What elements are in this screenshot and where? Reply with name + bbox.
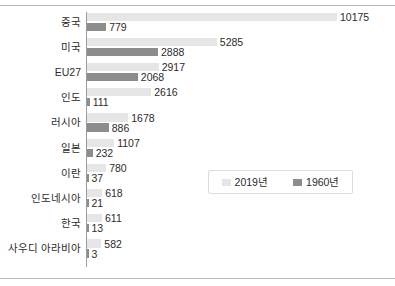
bar-value-label: 111: [93, 97, 109, 108]
bar-value-label: 37: [92, 173, 104, 184]
bar-value-label: 13: [92, 223, 104, 234]
bar-value-label: 618: [105, 188, 123, 199]
legend-swatch-icon: [293, 179, 302, 186]
category-label: 미국: [0, 42, 81, 54]
plot-area: 중국10175779미국52852888EU2729172068인도261611…: [0, 10, 395, 272]
bar-old: 13: [87, 224, 89, 232]
bar-group: 5823: [87, 237, 395, 262]
top-divider-rule: [0, 5, 395, 6]
bar-group: 1107232: [87, 136, 395, 161]
bar-old: 232: [87, 149, 93, 157]
legend-entry: 1960년: [293, 177, 339, 188]
bar-value-label: 2888: [161, 47, 184, 58]
bar-value-label: 779: [109, 21, 127, 32]
bar-value-label: 886: [112, 122, 130, 133]
bar-row: 사우디 아라비아5823: [0, 237, 395, 262]
legend-label: 1960년: [306, 177, 339, 188]
category-label: 일본: [0, 143, 81, 155]
bar-old: 2068: [87, 73, 138, 81]
bar-value-label: 1678: [131, 112, 154, 123]
bar-value-label: 5285: [220, 37, 243, 48]
bar-group: 52852888: [87, 35, 395, 60]
category-label: EU27: [0, 67, 81, 79]
bar-row: 미국52852888: [0, 35, 395, 60]
chart-legend: 2019년1960년: [208, 170, 353, 194]
category-label: 러시아: [0, 118, 81, 130]
bar-value-label: 2068: [141, 72, 164, 83]
bar-old: 3: [87, 249, 89, 257]
bar-value-label: 2917: [162, 62, 185, 73]
bar-value-label: 780: [109, 163, 127, 174]
category-label: 인도네시아: [0, 193, 81, 205]
bar-row: EU2729172068: [0, 60, 395, 85]
category-label: 사우디 아라비아: [0, 244, 81, 256]
bar-value-label: 611: [105, 213, 122, 224]
category-label: 중국: [0, 17, 81, 29]
bar-old: 886: [87, 123, 109, 131]
bar-group: 61113: [87, 212, 395, 237]
bar-old: 2888: [87, 48, 158, 56]
bar-row: 일본1107232: [0, 136, 395, 161]
bar-value-label: 2616: [154, 87, 177, 98]
bar-group: 29172068: [87, 60, 395, 85]
bar-row: 중국10175779: [0, 10, 395, 35]
bottom-divider-rule: [0, 278, 395, 279]
bar-chart-figure: 중국10175779미국52852888EU2729172068인도261611…: [0, 0, 395, 286]
bar-row: 한국61113: [0, 212, 395, 237]
bar-value-label: 10175: [340, 11, 369, 22]
bar-recent: 5285: [87, 38, 217, 46]
bar-value-label: 1107: [117, 137, 140, 148]
bar-group: 2616111: [87, 86, 395, 111]
bar-group: 10175779: [87, 10, 395, 35]
bar-row: 러시아1678886: [0, 111, 395, 136]
bar-group: 1678886: [87, 111, 395, 136]
legend-entry: 2019년: [222, 177, 268, 188]
legend-label: 2019년: [235, 177, 268, 188]
bar-value-label: 21: [92, 198, 104, 209]
category-label: 한국: [0, 218, 81, 230]
bar-old: 21: [87, 199, 89, 207]
category-label: 이란: [0, 168, 81, 180]
legend-swatch-icon: [222, 179, 231, 186]
bar-value-label: 582: [104, 238, 122, 249]
bar-old: 779: [87, 23, 106, 31]
bar-row: 인도2616111: [0, 86, 395, 111]
bar-value-label: 232: [96, 147, 114, 158]
bar-value-label: 3: [92, 248, 98, 259]
bar-old: 37: [87, 174, 89, 182]
category-label: 인도: [0, 92, 81, 104]
bar-old: 111: [87, 98, 90, 106]
